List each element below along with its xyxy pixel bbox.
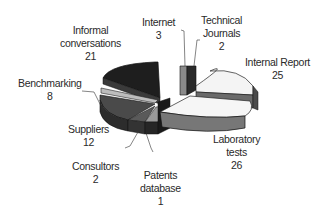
label-technical-journals: Technical Journals 2 xyxy=(201,14,242,53)
label-informal-conversations: Informal conversations 21 xyxy=(60,24,121,63)
slice-internet xyxy=(180,66,187,95)
slice-technical-journals xyxy=(187,66,196,95)
label-laboratory-tests: Laboratory tests 26 xyxy=(213,133,260,172)
label-consultors: Consultors 2 xyxy=(72,160,119,186)
slice-laboratory-tests xyxy=(160,96,252,131)
label-suppliers: Suppliers 12 xyxy=(68,123,109,149)
label-internal-report: Internal Report 25 xyxy=(245,56,310,82)
label-benchmarking: Benchmarking 8 xyxy=(18,77,82,103)
label-patents-database: Patents database 1 xyxy=(140,169,181,208)
label-internet: Internet 3 xyxy=(142,16,175,42)
